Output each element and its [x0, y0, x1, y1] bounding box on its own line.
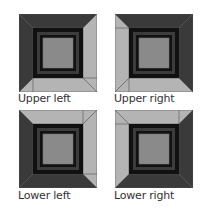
tile-lower-right — [115, 110, 193, 188]
frame-graphic-lower-left — [19, 110, 97, 188]
frame-band-left — [115, 14, 129, 92]
frame-band-right — [179, 14, 193, 92]
center-square — [139, 134, 169, 164]
tile-upper-right — [115, 14, 193, 92]
center-square — [43, 134, 73, 164]
frame-band-right — [83, 14, 97, 92]
center-square — [139, 38, 169, 68]
frame-band-left — [19, 110, 33, 188]
frame-graphic-upper-right — [115, 14, 193, 92]
frame-band-right — [83, 110, 97, 188]
center-square — [43, 38, 73, 68]
frame-band-left — [115, 110, 129, 188]
tile-upper-left — [19, 14, 97, 92]
frame-graphic-lower-right — [115, 110, 193, 188]
label-upper-left: Upper left — [18, 92, 71, 105]
frame-graphic-upper-left — [19, 14, 97, 92]
label-lower-right: Lower right — [114, 189, 174, 202]
label-lower-left: Lower left — [18, 189, 70, 202]
frame-band-left — [19, 14, 33, 92]
tile-lower-left — [19, 110, 97, 188]
frame-band-right — [179, 110, 193, 188]
label-upper-right: Upper right — [114, 92, 174, 105]
